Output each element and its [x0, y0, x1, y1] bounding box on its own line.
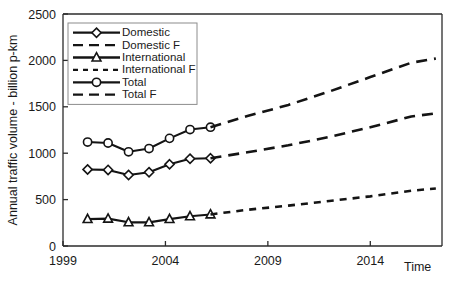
y-axis-ticks: 05001000150020002500 — [28, 8, 68, 254]
data-point-marker-circle — [145, 144, 153, 152]
y-tick-label: 0 — [49, 240, 56, 254]
chart-legend: DomesticDomestic FInternationalInternati… — [68, 23, 197, 104]
data-point-marker-circle — [165, 134, 173, 142]
data-point-marker-circle — [186, 125, 194, 133]
series-total — [83, 123, 214, 156]
data-point-marker-triangle — [104, 214, 113, 222]
data-point-marker-circle — [83, 138, 91, 146]
y-tick-label: 2500 — [28, 8, 56, 22]
data-point-marker-diamond — [83, 165, 92, 174]
y-tick-label: 1000 — [28, 147, 56, 161]
legend-item-label: Domestic F — [122, 39, 180, 51]
chart-container: 05001000150020002500 1999200420092014 An… — [0, 0, 457, 286]
x-tick-label: 2014 — [356, 254, 384, 268]
data-point-marker-diamond — [165, 160, 174, 169]
line-chart: 05001000150020002500 1999200420092014 An… — [0, 0, 457, 286]
data-point-marker-diamond — [103, 165, 112, 174]
legend-item-label: Total F — [122, 88, 157, 100]
series-domestic-f — [211, 113, 436, 158]
series-path — [211, 113, 436, 158]
legend-item-label: Domestic — [122, 26, 170, 38]
x-tick-label: 2004 — [152, 254, 180, 268]
data-point-marker-diamond — [124, 170, 133, 179]
data-point-marker-diamond — [144, 168, 153, 177]
y-axis-title: Annual traffic volume - billion p-km — [6, 35, 20, 226]
x-tick-label: 1999 — [49, 254, 77, 268]
data-point-marker-diamond — [185, 154, 194, 163]
data-point-marker-circle — [124, 148, 132, 156]
legend-item-label: Total — [122, 76, 146, 88]
series-international-f — [211, 188, 436, 214]
data-point-marker-circle — [92, 78, 100, 86]
data-point-marker-circle — [104, 139, 112, 147]
x-axis-title: Time — [404, 260, 431, 274]
series-international — [83, 210, 215, 226]
series-path — [211, 59, 436, 128]
legend-item-label: International F — [122, 63, 196, 75]
legend-item-label: International — [122, 51, 185, 63]
series-path — [211, 188, 436, 214]
x-axis-ticks: 1999200420092014 — [49, 241, 384, 268]
series-total-f — [211, 59, 436, 128]
data-point-marker-triangle — [124, 218, 133, 226]
data-point-marker-triangle — [165, 214, 174, 222]
series-domestic — [83, 154, 215, 180]
x-tick-label: 2009 — [254, 254, 282, 268]
data-point-marker-triangle — [186, 212, 195, 220]
data-point-marker-triangle — [145, 218, 154, 226]
y-tick-label: 2000 — [28, 54, 56, 68]
data-point-marker-triangle — [83, 214, 92, 222]
y-tick-label: 1500 — [28, 100, 56, 114]
y-tick-label: 500 — [35, 193, 56, 207]
